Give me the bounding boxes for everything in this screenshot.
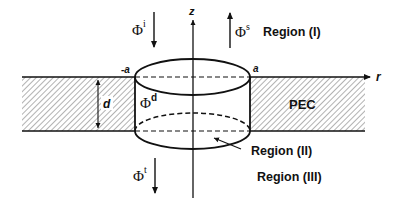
edge-label-a: a	[253, 63, 259, 74]
z-axis-label: z	[188, 5, 195, 17]
pec-slab-left	[22, 77, 135, 131]
scattered-field-label: Φs	[235, 21, 250, 40]
thickness-label: d	[103, 97, 111, 111]
region-3-label: Region (III)	[257, 170, 322, 184]
region-2-label: Region (II)	[251, 144, 312, 158]
field-inside-label: Φd	[140, 92, 157, 111]
aperture-diagram: r z -a a d Φd Φi Φs Region (I) PEC Regio…	[0, 0, 401, 216]
region-1-label: Region (I)	[263, 25, 321, 39]
edge-label-minus-a: -a	[121, 64, 130, 75]
pec-label: PEC	[289, 97, 316, 112]
transmitted-field-label: Φt	[133, 164, 147, 184]
r-axis-label: r	[376, 70, 382, 84]
incident-field-label: Φi	[132, 18, 146, 38]
